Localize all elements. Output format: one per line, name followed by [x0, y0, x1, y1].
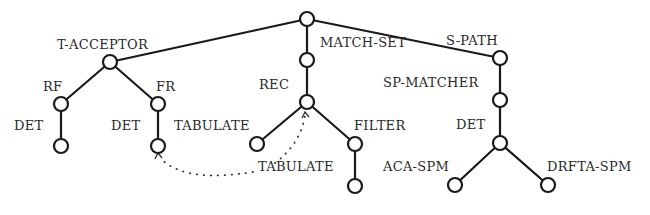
edge-t-acceptor-rf — [61, 62, 110, 104]
dotted-arrow-to-rec — [275, 115, 305, 163]
label-s-path: S-PATH — [446, 33, 498, 48]
label-tabulate-left: TABULATE — [174, 118, 250, 133]
label-fr-det: DET — [111, 118, 141, 133]
node-drfta-spm — [541, 178, 555, 192]
label-t-acceptor: T-ACCEPTOR — [57, 37, 149, 52]
label-rf-det: DET — [14, 118, 44, 133]
node-filter-child — [348, 179, 362, 193]
label-match-set: MATCH-SET — [320, 35, 406, 50]
node-tabulate-left — [250, 137, 264, 151]
node-match-set — [300, 53, 314, 67]
label-sp-matcher: SP-MATCHER — [383, 75, 479, 90]
edge-rec-tabulate-left — [257, 102, 307, 144]
node-aca-spm — [448, 178, 462, 192]
edge-rec-filter — [307, 102, 355, 144]
node-fr-det — [151, 139, 165, 153]
label-filter-child: TABULATE — [258, 159, 334, 174]
node-t-acceptor — [103, 55, 117, 69]
dotted-arrow-to-fr-det — [160, 158, 253, 175]
label-fr: FR — [156, 79, 176, 94]
label-rf: RF — [43, 79, 62, 94]
label-filter: FILTER — [354, 118, 406, 133]
edge-det-aca-spm — [455, 143, 500, 185]
tree-diagram: T-ACCEPTORRFDETFRDETMATCH-SETRECTABULATE… — [0, 0, 650, 215]
node-rec — [300, 95, 314, 109]
tree-labels: T-ACCEPTORRFDETFRDETMATCH-SETRECTABULATE… — [14, 33, 632, 174]
node-filter — [348, 137, 362, 151]
label-aca-spm: ACA-SPM — [382, 159, 449, 174]
label-drfta-spm: DRFTA-SPM — [547, 159, 632, 174]
node-rf-det — [54, 139, 68, 153]
label-det: DET — [456, 117, 486, 132]
node-root — [300, 12, 314, 26]
edge-t-acceptor-fr — [110, 62, 158, 104]
node-sp-matcher — [493, 93, 507, 107]
node-s-path — [493, 51, 507, 65]
label-rec: REC — [259, 77, 289, 92]
node-rf — [54, 97, 68, 111]
node-det — [493, 136, 507, 150]
edge-det-drfta-spm — [500, 143, 548, 185]
node-fr — [151, 97, 165, 111]
